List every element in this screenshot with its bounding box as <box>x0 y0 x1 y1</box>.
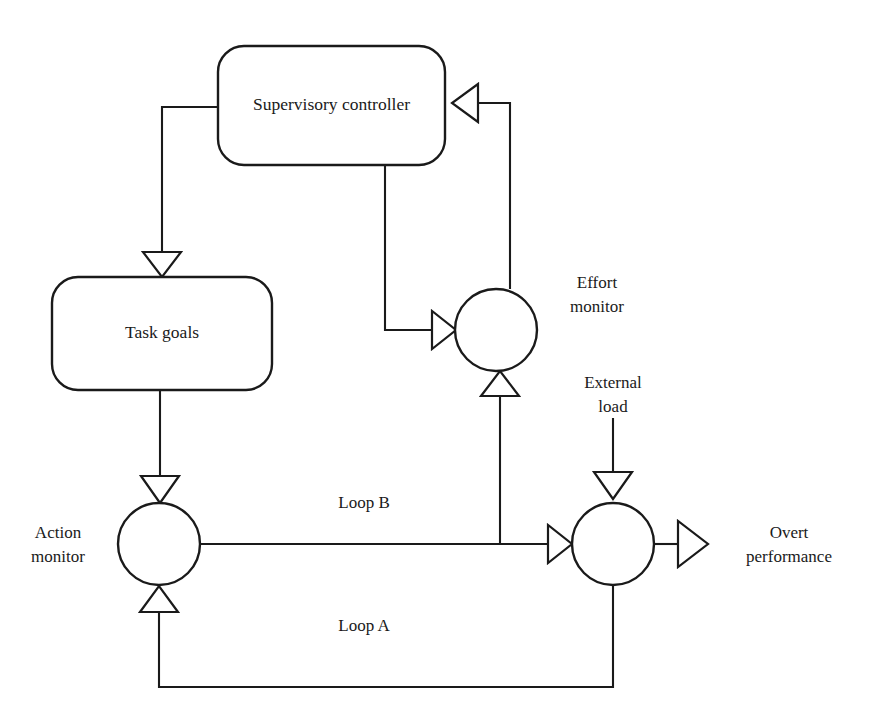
supervisory-controller-label: Supervisory controller <box>253 94 410 114</box>
edge-supervisory-to-task-goals <box>143 107 218 277</box>
arrowhead-down-icon <box>141 476 179 503</box>
arrowhead-down-icon <box>143 252 181 277</box>
arrowhead-up-icon <box>140 586 178 612</box>
overt-performance-label-line2: performance <box>746 547 832 566</box>
node-performance-summer[interactable] <box>572 503 654 585</box>
arrowhead-right-icon <box>548 525 572 563</box>
action-monitor-circle[interactable] <box>118 503 200 585</box>
overt-performance-label: Overt performance <box>746 523 832 566</box>
effort-monitor-label-line1: Effort <box>577 273 618 292</box>
external-load-label: External load <box>584 373 642 416</box>
external-load-label-line2: load <box>598 397 628 416</box>
effort-monitor-circle[interactable] <box>455 289 537 371</box>
edge-line <box>162 107 218 252</box>
diagram-svg: Supervisory controller Task goals Effort… <box>0 0 869 720</box>
external-load-label-line1: External <box>584 373 642 392</box>
performance-summer-circle[interactable] <box>572 503 654 585</box>
edge-line <box>385 165 432 330</box>
edge-action-monitor-to-performance <box>200 525 572 563</box>
arrowhead-down-icon <box>594 472 632 499</box>
edge-supervisory-to-effort-monitor <box>385 165 456 349</box>
edge-loop-b-to-effort-monitor <box>481 371 519 544</box>
node-effort-monitor[interactable]: Effort monitor <box>455 273 624 371</box>
diagram-canvas: Supervisory controller Task goals Effort… <box>0 0 869 720</box>
edge-performance-to-overt <box>654 521 708 567</box>
arrowhead-up-icon <box>481 371 519 396</box>
edge-line <box>159 585 613 687</box>
edge-task-goals-to-action-monitor <box>141 390 179 503</box>
edge-effort-monitor-to-supervisory <box>452 84 510 289</box>
action-monitor-label-line2: monitor <box>31 547 85 566</box>
node-task-goals[interactable]: Task goals <box>52 277 272 390</box>
edge-loop-a-to-action-monitor <box>140 585 613 687</box>
arrowhead-right-icon <box>432 311 456 349</box>
loop-a-label: Loop A <box>338 616 390 635</box>
edge-external-load-to-performance <box>594 418 632 499</box>
task-goals-label: Task goals <box>125 322 199 342</box>
overt-performance-label-line1: Overt <box>770 523 809 542</box>
action-monitor-label-line1: Action <box>35 523 82 542</box>
node-supervisory-controller[interactable]: Supervisory controller <box>218 46 445 165</box>
effort-monitor-label-line2: monitor <box>570 297 624 316</box>
arrowhead-right-icon <box>678 521 708 567</box>
node-action-monitor[interactable]: Action monitor <box>31 503 200 585</box>
loop-b-label: Loop B <box>338 493 389 512</box>
edge-line <box>478 103 510 289</box>
arrowhead-left-icon <box>452 84 478 122</box>
